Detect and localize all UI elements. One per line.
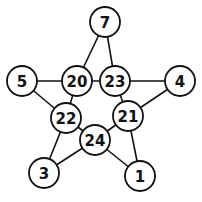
node-5: 5	[7, 66, 37, 96]
node-4: 4	[165, 66, 195, 96]
node-label: 20	[67, 73, 88, 91]
node-1: 1	[125, 161, 155, 191]
node-label: 4	[175, 73, 185, 91]
nodes-group: 752023422212431	[7, 7, 195, 191]
node-21: 21	[113, 101, 143, 131]
node-label: 7	[100, 14, 110, 32]
node-20: 20	[62, 66, 92, 96]
node-label: 23	[105, 73, 126, 91]
node-24: 24	[80, 125, 110, 155]
node-23: 23	[100, 66, 130, 96]
node-label: 5	[17, 73, 27, 91]
node-label: 1	[135, 168, 145, 186]
node-label: 22	[56, 110, 77, 128]
node-label: 21	[118, 108, 139, 126]
star-diagram: 752023422212431	[0, 0, 202, 202]
node-label: 24	[85, 132, 106, 150]
node-7: 7	[90, 7, 120, 37]
node-22: 22	[51, 103, 81, 133]
node-label: 3	[39, 165, 49, 183]
node-3: 3	[29, 158, 59, 188]
